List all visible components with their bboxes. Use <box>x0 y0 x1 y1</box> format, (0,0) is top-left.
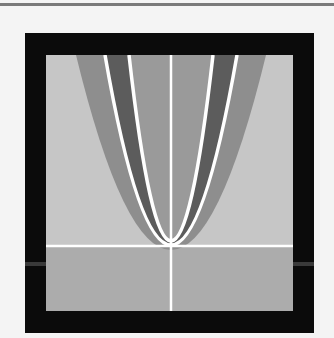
parabola-diagram <box>0 0 334 338</box>
lower-background-region <box>46 246 293 311</box>
